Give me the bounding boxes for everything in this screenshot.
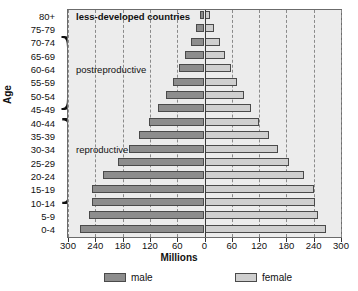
y-tick-label-60-64: 60-64 (9, 64, 55, 75)
bar-female-40-44 (205, 118, 260, 126)
bar-male-65-69 (185, 51, 204, 59)
annotation-less-developed-countries: less-developed countries (76, 11, 190, 22)
bar-male-50-54 (166, 91, 205, 99)
y-tick-label-10-14: 10-14 (9, 198, 55, 209)
bar-male-70-74 (191, 38, 205, 46)
y-tick-label-70-74: 70-74 (9, 37, 55, 48)
zero-axis-line (205, 10, 206, 237)
bar-male-35-39 (139, 131, 204, 139)
y-tick-label-5-9: 5-9 (9, 211, 55, 222)
bar-male-30-34 (129, 145, 204, 153)
gridline-300 (341, 10, 342, 237)
y-tick-label-25-29: 25-29 (9, 158, 55, 169)
bar-male-45-49 (158, 104, 205, 112)
legend-swatch-female-icon (235, 273, 257, 282)
bar-female-75-79 (205, 24, 215, 32)
bar-female-25-29 (205, 158, 290, 166)
bar-female-65-69 (205, 51, 225, 59)
x-axis-title: Millions (0, 252, 358, 263)
bar-male-60-64 (179, 64, 204, 72)
y-tick-label-20-24: 20-24 (9, 171, 55, 182)
bar-male-25-29 (118, 158, 204, 166)
bar-female-55-59 (205, 78, 238, 86)
legend-label-female: female (262, 271, 292, 284)
bar-female-50-54 (205, 91, 244, 99)
population-pyramid-chart: Age 80+75-7970-7465-6960-6455-5950-5445-… (0, 0, 358, 291)
bar-female-60-64 (205, 64, 231, 72)
legend-swatch-male-icon (104, 273, 126, 282)
bar-female-20-24 (205, 171, 305, 179)
y-tick-label-75-79: 75-79 (9, 24, 55, 35)
y-tick-label-50-54: 50-54 (9, 91, 55, 102)
y-tick-label-30-34: 30-34 (9, 144, 55, 155)
bar-male-5-9 (89, 211, 205, 219)
bar-female-0-4 (205, 225, 327, 233)
legend: male female (0, 271, 358, 287)
bar-male-55-59 (173, 78, 205, 86)
x-tick-label-300-10: 300 (324, 240, 358, 251)
y-tick-label-65-69: 65-69 (9, 51, 55, 62)
annotation-reproductive: reproductive (76, 144, 128, 155)
bar-female-45-49 (205, 104, 251, 112)
bar-male-15-19 (92, 185, 204, 193)
legend-label-male: male (131, 271, 153, 284)
bar-female-10-14 (205, 198, 316, 206)
annotation-postreproductive: postreproductive (76, 64, 146, 75)
bar-female-30-34 (205, 145, 279, 153)
y-tick-label-80+: 80+ (9, 11, 55, 22)
bar-male-40-44 (149, 118, 205, 126)
plot-area: less-developed countriespostreproductive… (67, 9, 342, 238)
y-tick-label-15-19: 15-19 (9, 184, 55, 195)
y-tick-label-40-44: 40-44 (9, 118, 55, 129)
bar-female-15-19 (205, 185, 315, 193)
y-tick-label-35-39: 35-39 (9, 131, 55, 142)
y-tick-label-45-49: 45-49 (9, 104, 55, 115)
y-tick-label-55-59: 55-59 (9, 77, 55, 88)
bar-female-70-74 (205, 38, 220, 46)
bar-male-10-14 (92, 198, 205, 206)
bar-male-75-79 (196, 24, 204, 32)
bar-female-5-9 (205, 211, 318, 219)
bar-female-35-39 (205, 131, 269, 139)
bar-male-0-4 (80, 225, 204, 233)
y-tick-label-0-4: 0-4 (9, 224, 55, 235)
bar-male-20-24 (103, 171, 205, 179)
